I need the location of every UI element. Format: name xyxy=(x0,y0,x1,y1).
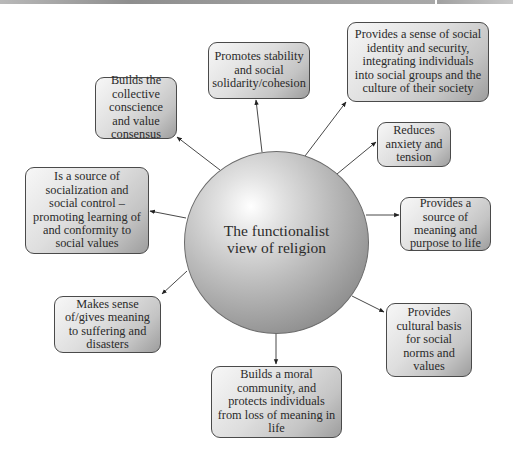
node-promotes-stability: Promotes stability and social solidarity… xyxy=(208,42,310,99)
node-label: Is a source of socialization and social … xyxy=(30,170,144,250)
node-reduces-anxiety: Reduces anxiety and tension xyxy=(377,122,451,167)
central-concept-circle: The functionalist view of religion xyxy=(184,151,369,334)
node-label: Reduces anxiety and tension xyxy=(382,124,446,164)
node-socialization-control: Is a source of socialization and social … xyxy=(25,167,149,254)
edge-center-anxiety xyxy=(337,142,376,174)
node-suffering-disasters: Makes sense of/gives meaning to sufferin… xyxy=(54,296,161,353)
node-label: Promotes stability and social solidarity… xyxy=(212,50,306,90)
node-cultural-basis: Provides cultural basis for social norms… xyxy=(386,303,472,377)
edge-center-cultural xyxy=(352,296,384,312)
node-label: Provides a source of meaning and purpose… xyxy=(405,197,486,251)
node-label: Builds a moral community, and protects i… xyxy=(216,368,337,435)
node-label: Builds the collective conscience and val… xyxy=(100,74,172,141)
node-label: Provides cultural basis for social norms… xyxy=(391,306,467,373)
node-meaning-purpose: Provides a source of meaning and purpose… xyxy=(400,197,491,251)
edge-center-stability xyxy=(256,100,262,152)
node-collective-conscience: Builds the collective conscience and val… xyxy=(95,77,177,139)
central-concept-label: The functionalist view of religion xyxy=(185,222,368,256)
edge-center-collective xyxy=(177,137,220,170)
edge-center-suffering xyxy=(162,271,187,294)
edge-center-socialization xyxy=(150,211,186,218)
edge-center-identity xyxy=(305,102,346,156)
node-label: Makes sense of/gives meaning to sufferin… xyxy=(59,298,156,352)
node-social-identity: Provides a sense of social identity and … xyxy=(347,22,489,102)
node-moral-community: Builds a moral community, and protects i… xyxy=(211,366,342,438)
node-label: Provides a sense of social identity and … xyxy=(352,28,484,95)
